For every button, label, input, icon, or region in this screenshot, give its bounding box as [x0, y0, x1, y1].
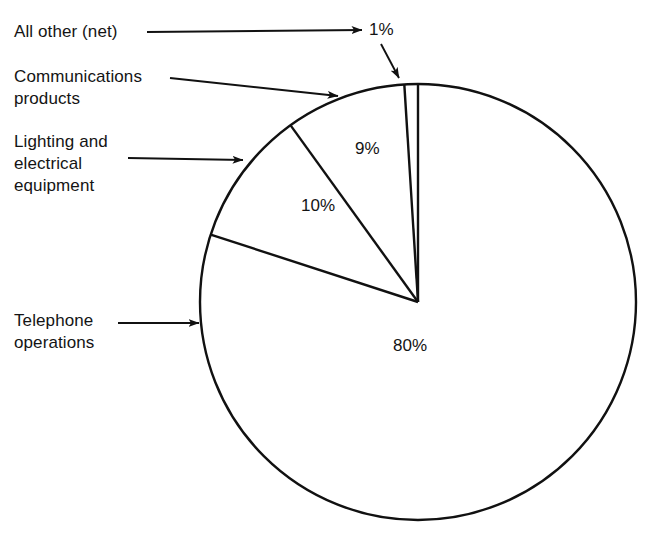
- leader-line-all-other: [147, 30, 362, 32]
- leader-line-all-other-tip: [381, 44, 399, 78]
- callout-label-all-other: All other (net): [14, 21, 118, 43]
- pie-chart-figure: All other (net) Communications products …: [0, 0, 659, 540]
- slice-value-all-other: 1%: [369, 20, 394, 40]
- callout-label-lighting-and-electrical-equipment: Lighting and electrical equipment: [14, 131, 108, 197]
- slice-value-communications-products: 9%: [355, 139, 380, 159]
- slice-value-telephone-operations: 80%: [393, 336, 427, 356]
- leader-line-lighting: [128, 158, 243, 160]
- callout-label-telephone-operations: Telephone operations: [14, 310, 94, 354]
- leader-line-communications: [170, 78, 338, 96]
- slice-value-lighting-and-electrical-equipment: 10%: [301, 196, 335, 216]
- callout-label-communications-products: Communications products: [14, 66, 142, 110]
